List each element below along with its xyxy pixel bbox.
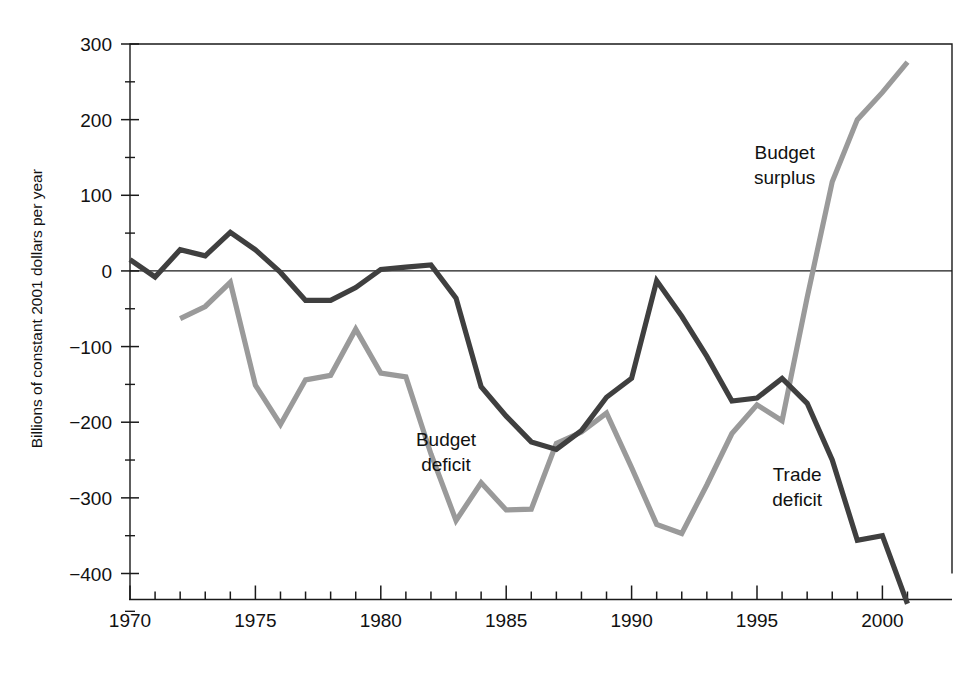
y-tick-label: 100 <box>80 185 112 206</box>
annotations: BudgetsurplusBudgetdeficitTradedeficit <box>416 142 823 510</box>
y-tick-label: 300 <box>80 34 112 55</box>
y-tick-label: −400 <box>69 564 112 585</box>
annotation-budget-surplus-line2: surplus <box>754 167 815 188</box>
y-axis-ticks: 3002001000−100−200−300−400 <box>69 34 139 611</box>
series-line-trade-deficit <box>130 232 907 603</box>
axes: Billions of constant 2001 dollars per ye… <box>28 44 952 600</box>
x-tick-label: 1975 <box>234 610 276 631</box>
chart-figure: Billions of constant 2001 dollars per ye… <box>0 0 979 677</box>
series-line-budget-surplus <box>180 62 907 533</box>
x-tick-label: 1995 <box>736 610 778 631</box>
x-tick-label: 2000 <box>861 610 903 631</box>
x-tick-label: 1980 <box>360 610 402 631</box>
x-tick-label: 1990 <box>610 610 652 631</box>
annotation-trade-deficit-line2: deficit <box>772 489 822 510</box>
annotation-budget-surplus-line1: Budget <box>754 142 815 163</box>
annotation-trade-deficit-line1: Trade <box>773 464 822 485</box>
y-tick-label: −100 <box>69 337 112 358</box>
y-tick-label: 200 <box>80 110 112 131</box>
y-tick-label: −300 <box>69 488 112 509</box>
x-axis-ticks: 1970197519801985199019952000 <box>109 586 908 631</box>
x-tick-label: 1985 <box>485 610 527 631</box>
x-tick-label: 1970 <box>109 610 151 631</box>
y-tick-label: 0 <box>101 261 112 282</box>
plot-frame <box>130 44 952 574</box>
annotation-budget-deficit-line1: Budget <box>416 429 477 450</box>
line-chart: Billions of constant 2001 dollars per ye… <box>0 0 979 677</box>
y-tick-label: −200 <box>69 412 112 433</box>
annotation-budget-deficit-line2: deficit <box>421 454 471 475</box>
y-axis-title: Billions of constant 2001 dollars per ye… <box>28 169 45 448</box>
